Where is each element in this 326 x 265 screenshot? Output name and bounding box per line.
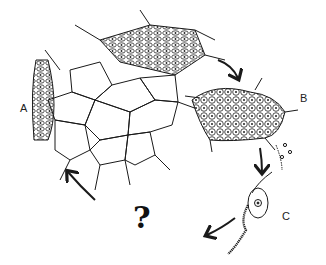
- diagram-drawing: [0, 0, 326, 265]
- label-b: B: [300, 92, 307, 104]
- cycle-arrows: [68, 60, 262, 235]
- label-c: C: [282, 210, 290, 222]
- question-mark: ?: [133, 200, 151, 235]
- diagram-canvas: A B C ?: [0, 0, 326, 265]
- label-a: A: [20, 102, 27, 114]
- stage-b-cluster: [185, 78, 298, 170]
- stage-c-flagellate: [228, 172, 272, 254]
